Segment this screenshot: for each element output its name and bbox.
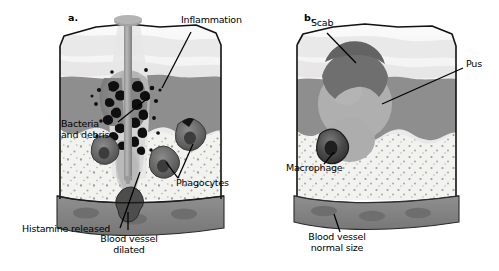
label-inflammation: Inflammation <box>181 15 242 26</box>
panel-b-graphic <box>292 20 463 232</box>
normal-blood-vessel <box>294 196 459 230</box>
label-macrophage: Macrophage <box>286 163 343 174</box>
label-bacteria-and-debris: Bacteria and debris <box>61 119 109 140</box>
label-blood-vessel-normal-size: Blood vessel normal size <box>296 232 378 253</box>
label-pus: Pus <box>466 59 482 70</box>
panel-a-key: a. <box>68 12 78 23</box>
label-phagocytes: Phagocytes <box>176 178 229 189</box>
label-histamine-released: Histamine released <box>22 224 110 235</box>
label-blood-vessel-dilated: Blood vessel dilated <box>88 234 170 255</box>
panel-b-tissue <box>292 20 462 210</box>
figure-canvas: a. b. Inflammation Bacteria and debris P… <box>0 0 499 271</box>
label-scab: Scab <box>311 18 333 29</box>
